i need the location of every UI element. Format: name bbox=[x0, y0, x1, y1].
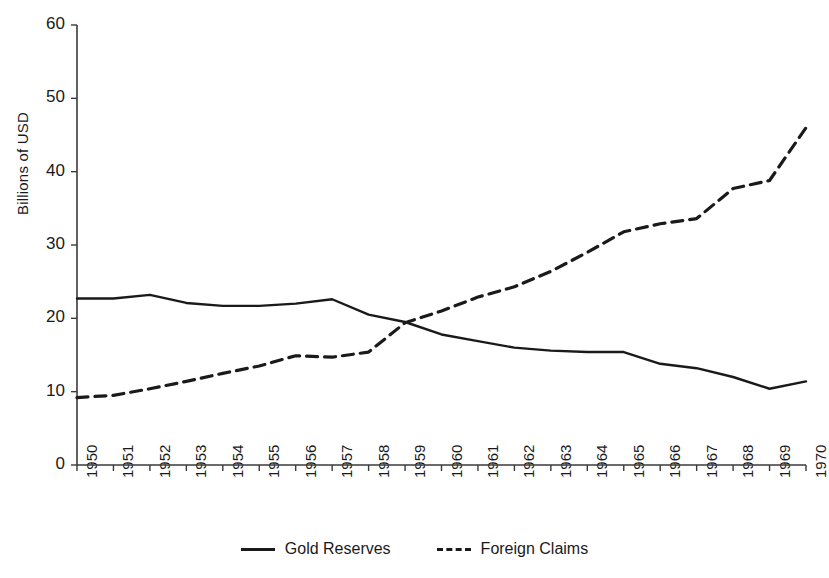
legend-swatch-dashed-icon bbox=[437, 548, 471, 551]
line-chart: Billions of USD 6050403020100 1950195119… bbox=[0, 0, 829, 578]
data-series bbox=[77, 128, 806, 398]
legend-label-foreign-claims: Foreign Claims bbox=[481, 540, 589, 558]
legend-swatch-solid-icon bbox=[241, 548, 275, 551]
legend-item-gold-reserves: Gold Reserves bbox=[241, 540, 391, 558]
legend-label-gold-reserves: Gold Reserves bbox=[285, 540, 391, 558]
legend-item-foreign-claims: Foreign Claims bbox=[437, 540, 589, 558]
plot-area bbox=[0, 0, 829, 578]
series-gold-reserves bbox=[77, 295, 806, 389]
series-foreign-claims bbox=[77, 128, 806, 398]
chart-legend: Gold Reserves Foreign Claims bbox=[0, 540, 829, 558]
axes-lines bbox=[71, 25, 806, 471]
